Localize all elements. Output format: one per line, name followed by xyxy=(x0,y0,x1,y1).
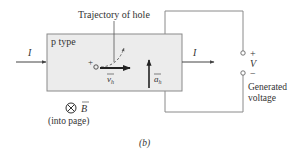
trajectory-label: Trajectory of hole xyxy=(78,9,150,20)
material-label: p type xyxy=(51,36,76,47)
terminal-positive[interactable] xyxy=(241,51,245,55)
current-out-label: I xyxy=(192,47,197,58)
terminal-minus-label: − xyxy=(250,68,256,79)
hole-plus-sign: + xyxy=(88,57,93,67)
generated-voltage-line2: voltage xyxy=(248,93,276,103)
hall-effect-diagram: p type I I Trajectory of hole + vh ah + … xyxy=(0,0,303,156)
current-in-label: I xyxy=(27,47,32,58)
figure-caption: (b) xyxy=(139,138,150,149)
magnetic-field-into-page-icon xyxy=(66,103,76,113)
generated-voltage-line1: Generated xyxy=(248,82,287,92)
field-label: B xyxy=(81,103,87,114)
terminal-negative[interactable] xyxy=(241,71,245,75)
field-note: (into page) xyxy=(48,116,89,127)
